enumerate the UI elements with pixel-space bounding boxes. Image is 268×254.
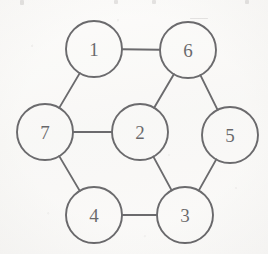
graph-node-5: 5 <box>202 107 258 163</box>
figure-canvas: 1672543 <box>0 0 268 254</box>
graph-diagram: 1672543 <box>0 0 268 254</box>
graph-node-2: 2 <box>112 104 168 160</box>
graph-node-6: 6 <box>160 22 216 78</box>
graph-edge-6-2 <box>154 74 174 108</box>
graph-edge-1-7 <box>59 73 80 108</box>
node-label-7: 7 <box>40 122 50 143</box>
graph-edge-7-4 <box>59 156 80 191</box>
node-label-4: 4 <box>89 205 99 226</box>
node-label-3: 3 <box>180 205 190 226</box>
graph-node-3: 3 <box>157 187 213 243</box>
graph-node-4: 4 <box>66 187 122 243</box>
node-label-6: 6 <box>183 40 193 61</box>
graph-node-1: 1 <box>66 21 122 77</box>
graph-node-7: 7 <box>17 104 73 160</box>
node-label-2: 2 <box>135 122 145 143</box>
node-label-5: 5 <box>225 125 235 146</box>
nodes-layer: 1672543 <box>17 21 258 243</box>
graph-edge-2-3 <box>153 157 171 191</box>
graph-edge-5-3 <box>199 159 217 190</box>
node-label-1: 1 <box>89 39 99 60</box>
graph-edge-6-5 <box>200 75 217 110</box>
